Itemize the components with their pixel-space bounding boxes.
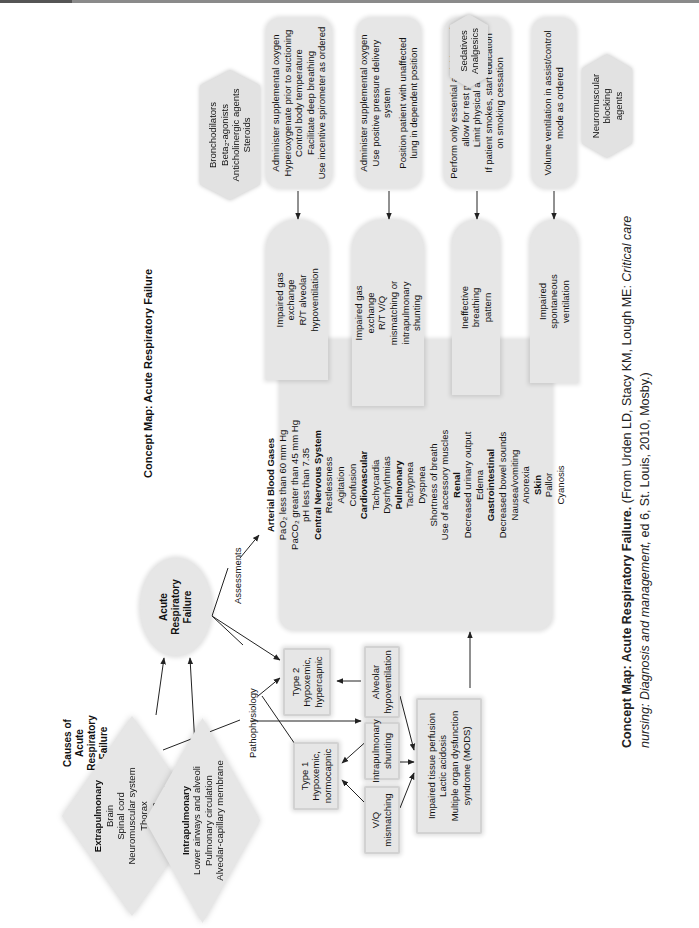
node-line: ventilation — [560, 280, 572, 323]
caption-text: (From Urden LD, Stacy KM, Lough ME: — [620, 282, 634, 507]
node-line: Impaired — [537, 283, 549, 320]
node-line: V/Q — [370, 812, 382, 828]
node-line: breathing — [470, 288, 482, 328]
node-line: Control body temperature — [293, 49, 305, 157]
page-title: Concept Map: Acute Respiratory Failure — [142, 269, 154, 478]
intervention-node-1: Administer supplemental oxygen Hyperoxyg… — [266, 18, 332, 188]
assessment-item: Pa O₂ less than 60 mm Hg — [277, 430, 289, 541]
node-line: pattern — [482, 293, 494, 323]
node-line: Administer supplemental oxygen — [270, 34, 282, 171]
assessment-item: Pallor — [543, 473, 555, 497]
intrapulmonary-causes-node: Intrapulmonary Lower airways and alveoli… — [145, 718, 260, 923]
assessment-item: Dyspnea — [416, 466, 428, 504]
assessment-heading: Pulmonary — [393, 460, 405, 509]
node-line: Hypoxemic, — [301, 657, 313, 707]
node-line: Acute — [158, 593, 170, 621]
node-line: Failure — [182, 591, 194, 624]
assessment-item: Use of accessory muscles — [439, 430, 451, 540]
assessment-item: Restlessness — [323, 457, 335, 514]
node-line: Position patient with unaffected — [397, 37, 409, 168]
node-line: R/T alveolar — [297, 274, 309, 325]
node-line: Steroids — [241, 118, 252, 153]
caption-italic: Critical care — [620, 216, 634, 282]
node-line: R/T V/Q — [376, 296, 388, 330]
figure-caption: Concept Map: Acute Respiratory Failure. … — [618, 48, 654, 748]
intrapulmonary-shunting-node: Intrapulmonary shunting — [364, 722, 400, 780]
node-line: system — [381, 88, 393, 118]
diagnosis-node-gas-exchange-vq: Impaired gas exchange R/T V/Q mismatchin… — [352, 220, 424, 406]
caption-italic: nursing: Diagnosis and management, — [638, 541, 652, 748]
node-heading: Intrapulmonary — [180, 786, 191, 855]
pathophysiology-edge-label: Pathophysiology — [247, 688, 258, 758]
node-line: lung in dependent position — [408, 48, 420, 159]
assessment-item: Cyanosis — [555, 465, 567, 504]
node-line: hypercapnic — [313, 656, 325, 707]
node-line: shunting — [411, 295, 423, 331]
assessment-item: Tachypnea — [404, 462, 416, 508]
diagnosis-node-ineffective-breathing: Ineffective breathing pattern — [452, 220, 500, 395]
node-line: Neuromuscular system — [126, 767, 137, 864]
node-line: Type 2 — [290, 668, 302, 697]
node-line: Impaired gas — [353, 286, 365, 341]
node-line: Lactic acidosis — [437, 735, 449, 797]
node-line: Anticholinergic agents — [230, 89, 241, 182]
concept-map-canvas: Concept Map: Acute Respiratory Failure C… — [0, 0, 699, 928]
node-line: Impaired tissue perfusion — [426, 713, 438, 819]
hexagon-shape: Sedatives Analgesics — [450, 14, 488, 88]
intervention-node-4: Volume ventilation in assist/control mod… — [532, 18, 576, 188]
assessment-item: Tachycardia — [370, 460, 382, 511]
assessment-item: Nausea/vomiting — [509, 450, 521, 521]
assessment-heading: Skin — [532, 475, 544, 495]
assessment-item: Edema — [474, 470, 486, 500]
node-line: Ineffective — [459, 286, 471, 329]
node-line: Impaired gas — [274, 273, 286, 328]
assessment-item: Shortness of breath — [428, 444, 440, 527]
intervention-node-2: Administer supplemental oxygen Use posit… — [357, 18, 421, 188]
acute-respiratory-failure-node: Acute Respiratory Failure — [140, 558, 212, 656]
hexagon-shape: Bronchodilators Beta₂-agonists Anticholi… — [200, 70, 260, 200]
assessment-item: Confusion — [347, 464, 359, 507]
node-line: Pulmonary circulation — [203, 775, 214, 866]
node-line: Bronchodilators — [207, 102, 218, 168]
node-line: Analgesics — [469, 28, 480, 74]
impaired-tissue-perfusion-node: Impaired tissue perfusion Lactic acidosi… — [416, 698, 482, 834]
node-line: Alveolar — [370, 665, 382, 699]
node-line: Volume ventilation in assist/control — [542, 30, 554, 175]
diagnosis-node-gas-exchange-hypoventilation: Impaired gas exchange R/T alveolar hypov… — [266, 220, 328, 380]
alveolar-hypoventilation-node: Alveolar hypoventilation — [364, 646, 400, 718]
node-line: normocapnic — [322, 749, 334, 803]
node-line: intrapulmonary — [400, 282, 412, 345]
assessment-item: Agitation — [335, 467, 347, 504]
node-line: Sedatives — [458, 30, 469, 72]
type2-node: Type 2 Hypoxemic, hypercapnic — [283, 648, 331, 716]
assessment-item: PaCO₂ greater than 45 mm Hg — [289, 420, 301, 550]
assessment-item: pH less than 7.35 — [300, 448, 312, 522]
node-line: Facilitate deep breathing — [305, 51, 317, 155]
node-line: Beta₂-agonists — [219, 104, 230, 166]
node-line: Hypoxemic, — [310, 751, 322, 801]
caption-bold: Concept Map: Acute Respiratory Failure. — [620, 507, 634, 748]
node-line: exchange — [365, 292, 377, 333]
assessments-edge-label: Assessments — [232, 548, 243, 605]
node-line: Use positive pressure delivery — [370, 40, 382, 167]
diagnosis-node-impaired-ventilation: Impaired spontaneous ventilation — [530, 220, 578, 383]
assessment-item: Decreased urinary output — [462, 432, 474, 539]
vq-mismatching-node: V/Q mismatching — [364, 786, 400, 854]
node-line: Brain — [104, 805, 115, 827]
medication-node-bronchodilators: Bronchodilators Beta₂-agonists Anticholi… — [200, 70, 260, 200]
node-line: shunting — [382, 733, 394, 769]
node-line: Type 1 — [299, 762, 311, 791]
type1-node: Type 1 Hypoxemic, normocapnic — [293, 742, 339, 810]
node-heading: Extrapulmonary — [92, 780, 103, 852]
node-line: on smoking cessation — [494, 57, 506, 148]
assessment-heading: Gastrointestinal — [485, 449, 497, 521]
node-line: Respiratory — [170, 579, 182, 635]
node-line: Administer supplemental oxygen — [358, 34, 370, 171]
node-line: exchange — [285, 279, 297, 320]
assessment-heading: Cardiovascular — [358, 451, 370, 520]
assessment-item: Decreased bowel sounds — [497, 432, 509, 539]
node-line: mismatching or — [388, 281, 400, 345]
node-line: syndrome (MODS) — [461, 726, 473, 805]
node-line: Neuromuscular — [590, 74, 601, 138]
caption-text: ed 6, St. Louis, 2010, Mosby.) — [638, 372, 652, 541]
